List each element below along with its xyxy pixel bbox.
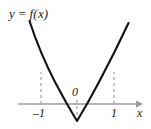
origin-label: 0	[72, 86, 78, 98]
x-tick-label-negative-one: –1	[33, 107, 45, 119]
x-axis-label: x	[137, 107, 142, 119]
x-tick-label-positive-one: 1	[111, 107, 117, 119]
function-label: y = f(x)	[9, 7, 48, 20]
function-graph-figure: y = f(x) 0 –1 1 x	[0, 0, 151, 129]
